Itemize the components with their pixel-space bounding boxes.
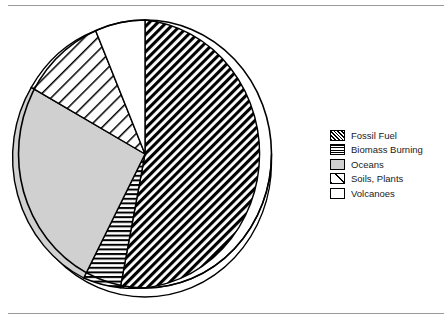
- legend-item-soils-plants[interactable]: Soils, Plants: [330, 172, 444, 187]
- legend-item-oceans[interactable]: Oceans: [330, 157, 444, 172]
- legend-label-fossil-fuel: Fossil Fuel: [351, 130, 397, 141]
- pie-chart-figure: Fossil Fuel Biomass Burning Oceans Soils…: [0, 0, 448, 321]
- frame-bottom-divider: [8, 313, 444, 314]
- legend-label-soils-plants: Soils, Plants: [351, 173, 403, 184]
- solid-gray-swatch-icon: [330, 159, 345, 170]
- pie-svg: [0, 0, 300, 310]
- dense-diagonal-hatch-swatch-icon: [330, 130, 345, 141]
- pie-plot-area: [0, 0, 300, 310]
- sparse-diagonal-hatch-swatch-icon: [330, 173, 345, 184]
- white-swatch-icon: [330, 188, 345, 199]
- legend-label-biomass-burning: Biomass Burning: [351, 144, 423, 155]
- chart-legend: Fossil Fuel Biomass Burning Oceans Soils…: [330, 128, 444, 201]
- legend-item-fossil-fuel[interactable]: Fossil Fuel: [330, 128, 444, 143]
- horizontal-lines-swatch-icon: [330, 144, 345, 155]
- legend-item-biomass-burning[interactable]: Biomass Burning: [330, 143, 444, 158]
- legend-item-volcanoes[interactable]: Volcanoes: [330, 186, 444, 201]
- legend-label-volcanoes: Volcanoes: [351, 188, 395, 199]
- legend-label-oceans: Oceans: [351, 159, 384, 170]
